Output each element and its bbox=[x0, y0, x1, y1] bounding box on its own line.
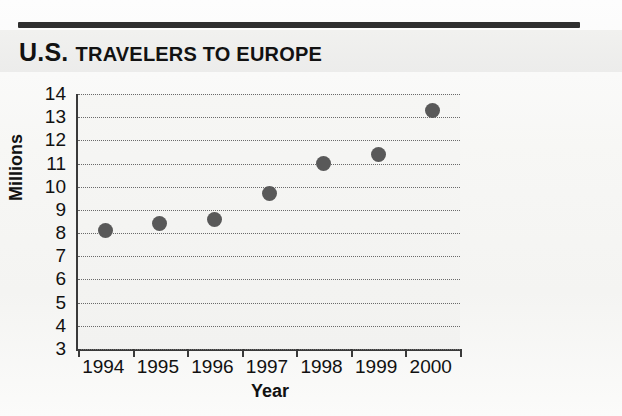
data-point-2000[interactable] bbox=[425, 103, 440, 118]
data-point-1995[interactable] bbox=[152, 216, 167, 231]
chart-title-primary: U.S. bbox=[19, 38, 68, 66]
x-tick-4 bbox=[296, 349, 298, 357]
gridline-y-5 bbox=[78, 303, 460, 304]
y-tick-label-6: 6 bbox=[26, 268, 66, 290]
y-tick-label-11: 11 bbox=[26, 153, 66, 175]
gridline-y-6 bbox=[78, 279, 460, 280]
y-tick-label-4: 4 bbox=[26, 315, 66, 337]
x-tick-label-1994: 1994 bbox=[82, 356, 124, 378]
gridline-y-9 bbox=[78, 210, 460, 211]
x-tick-2 bbox=[187, 349, 189, 357]
y-tick-label-10: 10 bbox=[26, 176, 66, 198]
x-tick-label-1996: 1996 bbox=[191, 356, 233, 378]
y-tick-label-7: 7 bbox=[26, 245, 66, 267]
data-point-1999[interactable] bbox=[371, 147, 386, 162]
gridline-y-8 bbox=[78, 233, 460, 234]
x-tick-label-2000: 2000 bbox=[410, 356, 452, 378]
y-tick-label-8: 8 bbox=[26, 222, 66, 244]
data-point-1997[interactable] bbox=[262, 186, 277, 201]
plot-area bbox=[76, 94, 460, 351]
chart-title-rest: Travelers to Europe bbox=[76, 43, 322, 65]
y-tick-label-9: 9 bbox=[26, 199, 66, 221]
gridline-y-11 bbox=[78, 164, 460, 165]
x-tick-1 bbox=[133, 349, 135, 357]
y-tick-label-5: 5 bbox=[26, 292, 66, 314]
chart-title: U.S. Travelers to Europe bbox=[19, 38, 322, 67]
x-tick-0 bbox=[78, 349, 80, 357]
gridline-y-12 bbox=[78, 140, 460, 141]
x-tick-label-1995: 1995 bbox=[137, 356, 179, 378]
y-tick-label-13: 13 bbox=[26, 106, 66, 128]
x-tick-5 bbox=[351, 349, 353, 357]
x-tick-label-1999: 1999 bbox=[355, 356, 397, 378]
x-tick-3 bbox=[242, 349, 244, 357]
x-tick-6 bbox=[405, 349, 407, 357]
x-axis-label: Year bbox=[0, 381, 540, 402]
gridline-y-14 bbox=[78, 94, 460, 95]
y-axis-label: Millions bbox=[6, 134, 27, 201]
x-tick-7 bbox=[460, 349, 462, 357]
x-tick-label-1998: 1998 bbox=[300, 356, 342, 378]
gridline-y-13 bbox=[78, 117, 460, 118]
data-point-1998[interactable] bbox=[316, 156, 331, 171]
gridline-y-3 bbox=[78, 349, 460, 350]
y-tick-label-14: 14 bbox=[26, 83, 66, 105]
y-tick-label-12: 12 bbox=[26, 129, 66, 151]
title-rule bbox=[18, 22, 580, 28]
x-tick-label-1997: 1997 bbox=[246, 356, 288, 378]
data-point-1994[interactable] bbox=[98, 223, 113, 238]
gridline-y-4 bbox=[78, 326, 460, 327]
gridline-y-7 bbox=[78, 256, 460, 257]
y-tick-label-3: 3 bbox=[26, 338, 66, 360]
data-point-1996[interactable] bbox=[207, 212, 222, 227]
